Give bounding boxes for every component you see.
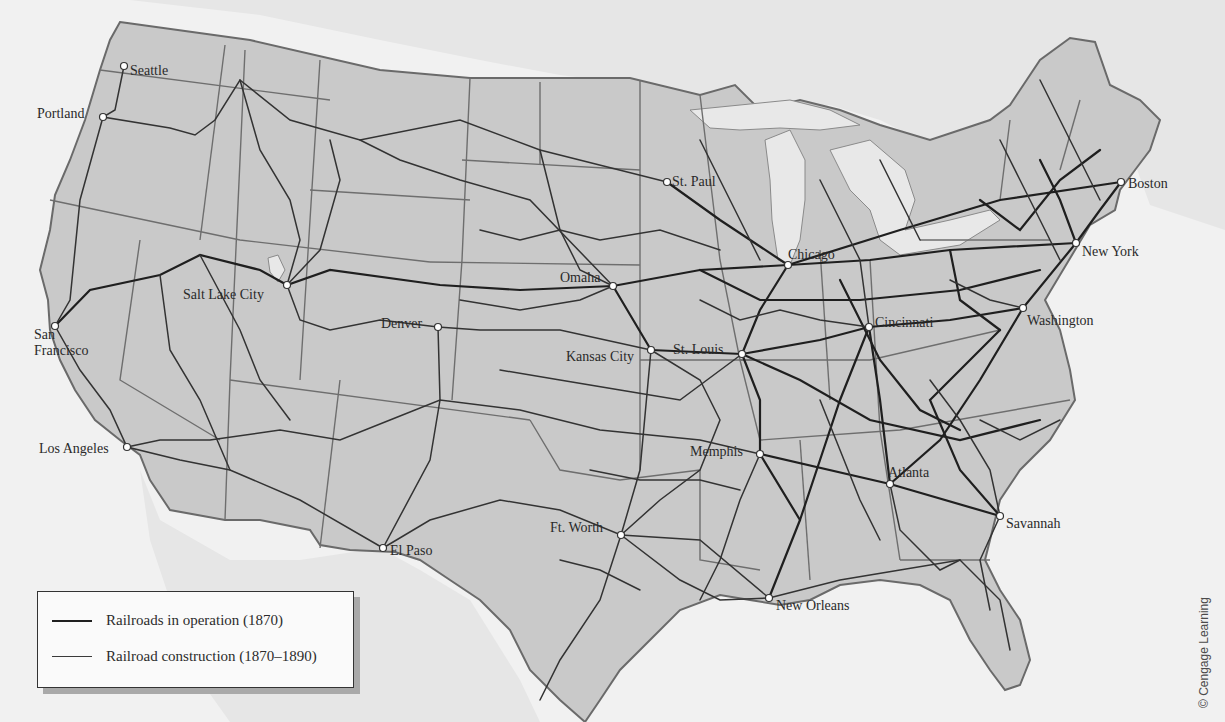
city-marker-chicago[interactable] — [785, 262, 792, 269]
city-marker-st-paul[interactable] — [664, 179, 671, 186]
thick-line-swatch-icon — [52, 620, 92, 622]
copyright-credit: © Cengage Learning — [1197, 597, 1211, 708]
thin-line-swatch-icon — [52, 656, 92, 657]
city-marker-memphis[interactable] — [757, 451, 764, 458]
city-marker-new-york[interactable] — [1073, 240, 1080, 247]
city-label-washington: Washington — [1027, 313, 1094, 328]
city-label-ft-worth: Ft. Worth — [550, 520, 603, 535]
city-label-memphis: Memphis — [690, 444, 743, 459]
city-marker-omaha[interactable] — [610, 283, 617, 290]
city-marker-denver[interactable] — [435, 324, 442, 331]
city-label-chicago: Chicago — [788, 247, 835, 262]
city-label-seattle: Seattle — [130, 63, 168, 78]
city-label-savannah: Savannah — [1006, 516, 1060, 531]
city-marker-los-angeles[interactable] — [124, 444, 131, 451]
city-marker-boston[interactable] — [1118, 179, 1125, 186]
city-marker-washington[interactable] — [1020, 305, 1027, 312]
city-label-el-paso: El Paso — [390, 543, 432, 558]
city-label-salt-lake-city: Salt Lake City — [183, 287, 264, 302]
city-marker-atlanta[interactable] — [887, 481, 894, 488]
city-label-denver: Denver — [381, 316, 422, 331]
city-marker-new-orleans[interactable] — [766, 595, 773, 602]
city-label-new-york: New York — [1082, 244, 1139, 259]
city-label-st-louis: St. Louis — [673, 342, 724, 357]
legend-item-1870-1890: Railroad construction (1870–1890) — [52, 648, 317, 665]
city-marker-savannah[interactable] — [997, 513, 1004, 520]
city-marker-cincinnati[interactable] — [866, 324, 873, 331]
legend-item-1870: Railroads in operation (1870) — [52, 612, 283, 629]
legend-label-1870-1890: Railroad construction (1870–1890) — [106, 648, 317, 665]
city-label-atlanta: Atlanta — [888, 465, 929, 480]
legend-label-1870: Railroads in operation (1870) — [106, 612, 283, 629]
city-marker-seattle[interactable] — [121, 63, 128, 70]
city-label-los-angeles: Los Angeles — [39, 441, 109, 456]
city-label-portland: Portland — [37, 106, 84, 121]
city-marker-el-paso[interactable] — [380, 545, 387, 552]
city-label-new-orleans: New Orleans — [776, 598, 849, 613]
city-marker-portland[interactable] — [100, 114, 107, 121]
city-label-boston: Boston — [1128, 176, 1168, 191]
city-label-omaha: Omaha — [560, 270, 600, 285]
city-marker-ft-worth[interactable] — [618, 532, 625, 539]
map-legend: Railroads in operation (1870) Railroad c… — [37, 591, 354, 688]
city-label-st-paul: St. Paul — [672, 174, 716, 189]
city-label-kansas-city: Kansas City — [566, 349, 634, 364]
city-marker-kansas-city[interactable] — [648, 347, 655, 354]
city-marker-st-louis[interactable] — [739, 351, 746, 358]
city-marker-salt-lake-city[interactable] — [284, 282, 291, 289]
city-label-san-francisco-2: Francisco — [34, 343, 88, 358]
city-label-cincinnati: Cincinnati — [875, 315, 933, 330]
city-label-san-francisco-1: San — [34, 327, 55, 342]
